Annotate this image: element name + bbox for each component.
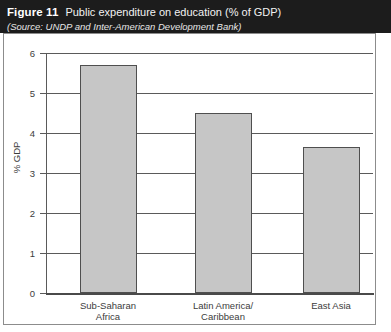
y-axis-title: % GDP <box>11 128 22 188</box>
x-axis-category-label: Sub-Saharan Africa <box>53 300 163 322</box>
figure-container: Figure 11Public expenditure on education… <box>0 0 391 332</box>
y-axis-line <box>46 53 47 294</box>
figure-title: Public expenditure on education (% of GD… <box>65 6 281 18</box>
figure-caption-line: Figure 11Public expenditure on education… <box>7 3 391 20</box>
bar <box>80 65 137 293</box>
y-axis-tick-label: 0 <box>4 289 35 298</box>
figure-caption-band: Figure 11Public expenditure on education… <box>0 0 391 33</box>
figure-number: Figure 11 <box>7 6 58 18</box>
chart-frame: 0123456 % GDP Sub-Saharan AfricaLatin Am… <box>3 33 376 325</box>
y-axis-tick-label: 5 <box>4 89 35 98</box>
y-axis-tick-label: 6 <box>4 49 35 58</box>
x-axis-category-label: East Asia <box>276 300 386 311</box>
bar <box>303 147 360 293</box>
bar-chart-plot: 0123456 % GDP Sub-Saharan AfricaLatin Am… <box>4 34 375 324</box>
bar <box>195 113 252 293</box>
x-axis-category-label: Latin America/ Caribbean <box>168 300 278 322</box>
y-axis-tick-label: 1 <box>4 249 35 258</box>
figure-source: (Source: UNDP and Inter-American Develop… <box>7 20 391 33</box>
x-axis-line <box>46 293 374 295</box>
gridline <box>46 53 373 54</box>
y-axis-tick-label: 2 <box>4 209 35 218</box>
